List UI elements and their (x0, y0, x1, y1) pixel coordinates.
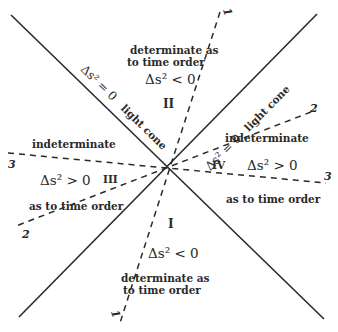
region-II-line2: to time order (127, 56, 205, 68)
region-II-numeral: II (163, 97, 175, 111)
region-II-line1: determinate as (130, 44, 219, 56)
region-I-line2: to time order (123, 284, 201, 296)
region-III-interval: Δs² > 0 (40, 172, 91, 188)
region-III-bottom-text: as to time order (29, 200, 124, 212)
region-I-numeral: I (168, 217, 174, 231)
light-cone-diagram: 1 1 2 2 3 3 Δs² = 0 light cone Δs² = 0 l… (0, 0, 338, 332)
line-2-label-bottom: 2 (21, 228, 30, 241)
region-IV-interval: Δs² > 0 (247, 157, 298, 173)
light-cone-right-tag: light cone (242, 83, 292, 134)
region-IV-top-text: indeterminate (225, 132, 309, 144)
line-3-label-left: 3 (8, 158, 16, 171)
light-cone-left-equation: Δs² = 0 (78, 62, 120, 103)
region-IV-numeral: IV (212, 159, 226, 171)
region-IV-bottom-text: as to time order (226, 193, 321, 205)
region-I-interval: Δs² < 0 (148, 245, 199, 261)
line-3-label-right: 3 (324, 170, 332, 183)
region-III-top-text: indeterminate (32, 138, 116, 150)
region-I-line1: determinate as (121, 272, 210, 284)
region-II-interval: Δs² < 0 (145, 71, 196, 87)
line-1-label-bottom: 1 (108, 308, 123, 320)
line-1-label-top: 1 (220, 6, 235, 18)
region-III-numeral: III (103, 173, 118, 185)
line-2-label-top: 2 (309, 102, 318, 115)
